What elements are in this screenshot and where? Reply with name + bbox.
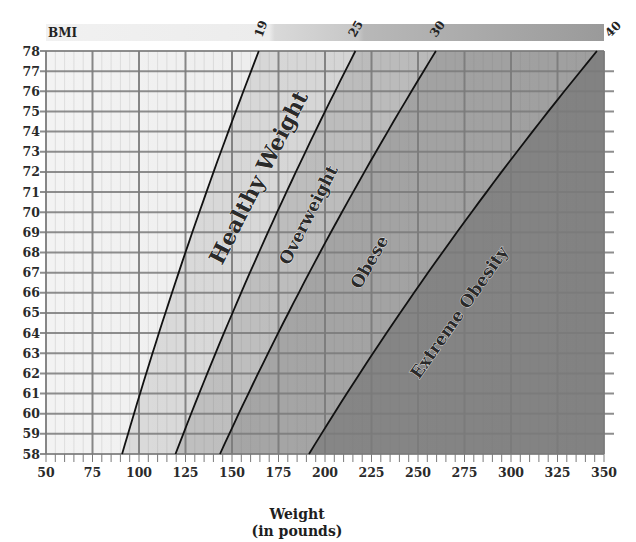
y-tick-label: 70 bbox=[23, 205, 41, 220]
x-axis-title-line1: Weight bbox=[268, 506, 325, 522]
x-axis-ticks: 5075100125150175200225250275300325350 bbox=[37, 465, 617, 480]
y-tick-label: 78 bbox=[23, 44, 41, 59]
y-tick-label: 74 bbox=[23, 124, 41, 139]
x-tick-label: 75 bbox=[84, 465, 101, 480]
y-axis-ticks: 5859606162636465666768697071727374757677… bbox=[23, 44, 41, 462]
y-tick-label: 59 bbox=[23, 426, 40, 441]
bmi-marker-40: 40 bbox=[602, 18, 624, 40]
x-tick-label: 250 bbox=[405, 465, 431, 480]
x-tick-label: 350 bbox=[591, 465, 617, 480]
y-tick-label: 61 bbox=[23, 386, 40, 401]
x-tick-label: 225 bbox=[358, 465, 384, 480]
y-tick-label: 68 bbox=[23, 245, 41, 260]
bmi-legend-bar: BMI 19 25 30 40 bbox=[46, 18, 624, 41]
y-tick-label: 60 bbox=[23, 406, 41, 421]
y-tick-label: 76 bbox=[23, 84, 41, 99]
y-tick-label: 75 bbox=[23, 104, 40, 119]
x-tick-label: 175 bbox=[265, 465, 291, 480]
x-tick-label: 150 bbox=[219, 465, 245, 480]
x-tick-label: 100 bbox=[126, 465, 152, 480]
y-tick-label: 62 bbox=[23, 366, 40, 381]
y-tick-label: 73 bbox=[23, 144, 40, 159]
y-tick-label: 77 bbox=[23, 64, 40, 79]
y-tick-label: 65 bbox=[23, 305, 40, 320]
x-tick-label: 125 bbox=[172, 465, 198, 480]
bmi-chart: BMI 19 25 30 40 585960616263646566676869… bbox=[0, 0, 636, 542]
y-tick-label: 71 bbox=[23, 185, 40, 200]
bmi-bar-title: BMI bbox=[48, 26, 77, 40]
y-tick-label: 63 bbox=[23, 346, 40, 361]
x-axis-title-line2: (in pounds) bbox=[252, 523, 343, 539]
y-tick-label: 72 bbox=[23, 164, 40, 179]
y-tick-label: 69 bbox=[23, 225, 40, 240]
x-tick-label: 325 bbox=[544, 465, 570, 480]
x-tick-label: 50 bbox=[37, 465, 55, 480]
x-tick-label: 300 bbox=[498, 465, 524, 480]
y-tick-label: 67 bbox=[23, 265, 40, 280]
y-tick-label: 64 bbox=[23, 326, 41, 341]
x-tick-label: 275 bbox=[451, 465, 477, 480]
y-tick-label: 58 bbox=[23, 447, 41, 462]
x-tick-label: 200 bbox=[312, 465, 338, 480]
y-tick-label: 66 bbox=[23, 285, 41, 300]
